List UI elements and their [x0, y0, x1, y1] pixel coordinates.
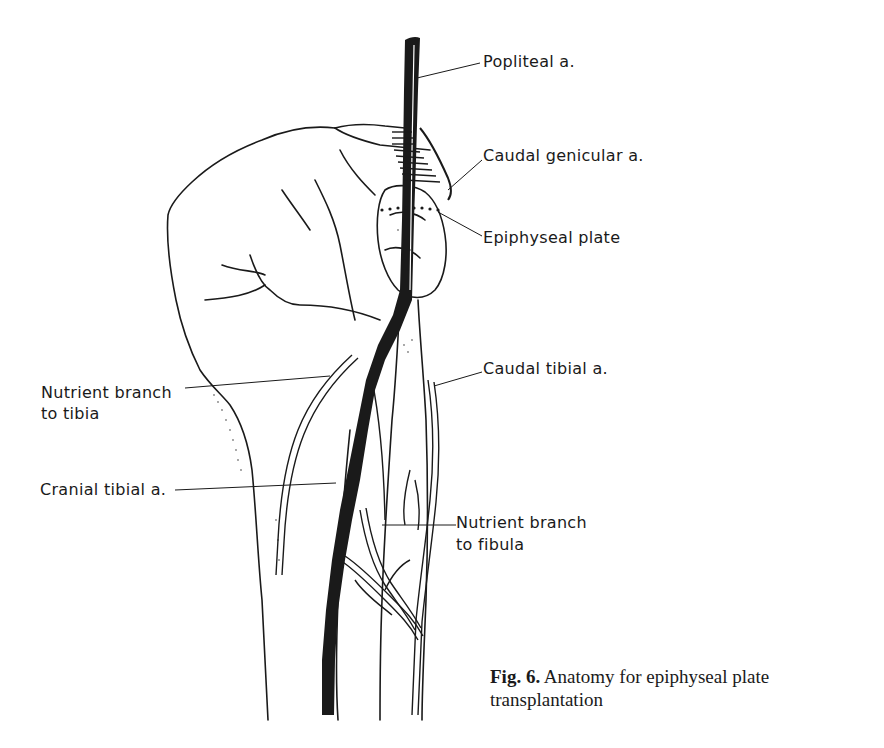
- label-epiphyseal-plate: Epiphyseal plate: [483, 228, 620, 248]
- figure-caption: Fig. 6. Anatomy for epiphyseal plate tra…: [490, 665, 870, 711]
- label-caudal-tibial-artery: Caudal tibial a.: [483, 359, 608, 379]
- label-cranial-tibial-artery: Cranial tibial a.: [40, 480, 166, 500]
- figure-number: Fig. 6.: [490, 666, 540, 687]
- label-nutrient-branch-fibula-line2: to fibula: [456, 535, 524, 555]
- label-caudal-genicular-artery: Caudal genicular a.: [483, 146, 644, 166]
- label-nutrient-branch-fibula-line1: Nutrient branch: [456, 513, 587, 533]
- tibia-outline: [167, 127, 335, 720]
- stippling: [213, 229, 413, 561]
- tibia-top: [335, 125, 405, 128]
- leader-lines: [175, 63, 482, 525]
- anatomy-figure: [0, 0, 884, 748]
- leader-caudal-tibial: [434, 372, 482, 386]
- anatomy-drawing: [0, 0, 884, 748]
- leader-caudal-genicular: [448, 160, 482, 190]
- leader-cranial-tibial: [175, 483, 336, 490]
- leader-popliteal: [417, 63, 480, 78]
- label-popliteal-artery: Popliteal a.: [483, 52, 575, 72]
- label-nutrient-branch-tibia-line2: to tibia: [41, 404, 100, 424]
- label-nutrient-branch-tibia-line1: Nutrient branch: [41, 383, 172, 403]
